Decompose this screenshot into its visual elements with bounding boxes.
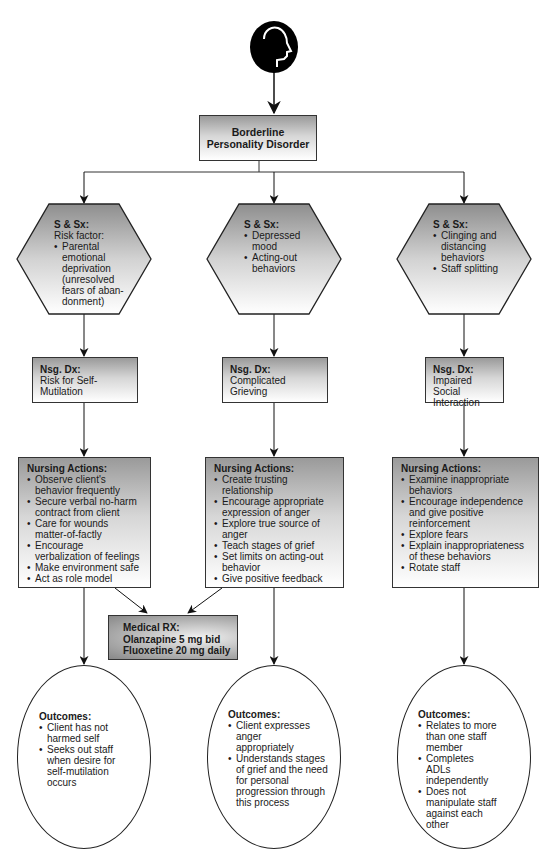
action-item: Explain inappropriateness of these behav…	[401, 540, 530, 562]
hex-item: Parental emotional deprivation (unresolv…	[54, 241, 124, 307]
nursing-actions-box-2: Nursing Actions: Create trusting relatio…	[205, 457, 344, 588]
nursing-actions-box-3: Nursing Actions: Examine inappropriate b…	[392, 457, 539, 588]
action-item: Explore fears	[401, 529, 530, 540]
outcome-item: Client has not harmed self	[39, 722, 115, 744]
dx-text: Impaired Social Interaction	[433, 375, 480, 408]
hex-item: Staff splitting	[433, 263, 518, 274]
action-item: Give positive feedback	[214, 573, 335, 584]
action-item: Care for wounds matter-of-factly	[27, 518, 142, 540]
actions-label: Nursing Actions:	[27, 463, 142, 474]
root-title-line1: Borderline	[232, 126, 285, 138]
rx-label: Medical RX:	[123, 622, 237, 634]
action-item: Create trusting relationship	[214, 474, 335, 496]
hex-item: Acting-out behaviors	[244, 252, 302, 274]
dx-text: Risk for Self-Mutilation	[40, 375, 97, 397]
outcome-item: Does not manipulate staff against each o…	[418, 786, 508, 830]
dx-label: Nsg. Dx:	[40, 364, 130, 375]
actions-label: Nursing Actions:	[401, 463, 530, 474]
outcome-item: Understands stages of grief and the need…	[228, 753, 332, 808]
head-profile-icon	[249, 21, 299, 73]
nursing-diagnosis-box-3: Nsg. Dx: Impaired Social Interaction	[425, 357, 504, 403]
hex-label: S & Sx:	[54, 219, 134, 230]
root-diagnosis-box: Borderline Personality Disorder	[199, 115, 317, 161]
action-item: Make environment safe	[27, 562, 142, 573]
outcomes-label: Outcomes:	[39, 711, 135, 722]
hex-item: Clinging and distancing behaviors	[433, 230, 501, 263]
hex-label: S & Sx:	[433, 219, 518, 230]
hex-item: Depressed mood	[244, 230, 302, 252]
outcomes-text-1: Outcomes: Client has not harmed self See…	[39, 711, 135, 788]
dx-label: Nsg. Dx:	[230, 364, 320, 375]
action-item: Encourage appropriate expression of ange…	[214, 496, 335, 518]
outcomes-label: Outcomes:	[228, 709, 332, 720]
outcomes-label: Outcomes:	[418, 709, 512, 720]
action-item: Observe client's behavior frequently	[27, 474, 142, 496]
rx-item: Fluoxetine 20 mg daily	[123, 645, 237, 657]
signs-symptoms-hex-3: S & Sx: Clinging and distancing behavior…	[433, 219, 518, 274]
action-item: Teach stages of grief	[214, 540, 335, 551]
outcome-item: Completes ADLs independently	[418, 753, 494, 786]
outcome-item: Seeks out staff when desire for self-mut…	[39, 744, 135, 788]
outcomes-text-3: Outcomes: Relates to more than one staff…	[418, 709, 512, 830]
action-item: Act as role model	[27, 573, 142, 584]
dx-text: Complicated Grieving	[230, 375, 286, 397]
medical-rx-box: Medical RX: Olanzapine 5 mg bid Fluoxeti…	[108, 615, 238, 660]
action-item: Set limits on acting-out behavior	[214, 551, 335, 573]
hex-intro: Risk factor:	[54, 230, 134, 241]
outcome-item: Relates to more than one staff member	[418, 720, 512, 753]
root-title-line2: Personality Disorder	[207, 138, 310, 150]
rx-item: Olanzapine 5 mg bid	[123, 634, 237, 646]
hex-label: S & Sx:	[244, 219, 324, 230]
action-item: Secure verbal no-harm contract from clie…	[27, 496, 142, 518]
action-item: Rotate staff	[401, 562, 530, 573]
outcomes-text-2: Outcomes: Client expresses anger appropr…	[228, 709, 332, 808]
actions-label: Nursing Actions:	[214, 463, 335, 474]
signs-symptoms-hex-2: S & Sx: Depressed mood Acting-out behavi…	[244, 219, 324, 274]
action-item: Encourage verbalization of feelings	[27, 540, 142, 562]
action-item: Explore true source of anger	[214, 518, 335, 540]
action-item: Examine inappropriate behaviors	[401, 474, 530, 496]
dx-label: Nsg. Dx:	[433, 364, 496, 375]
nursing-actions-box-1: Nursing Actions: Observe client's behavi…	[18, 457, 151, 588]
nursing-diagnosis-box-1: Nsg. Dx: Risk for Self-Mutilation	[32, 357, 138, 403]
signs-symptoms-hex-1: S & Sx: Risk factor: Parental emotional …	[54, 219, 134, 307]
action-item: Encourage independence and give positive…	[401, 496, 530, 529]
nursing-diagnosis-box-2: Nsg. Dx: Complicated Grieving	[222, 357, 328, 403]
outcome-item: Client expresses anger appropriately	[228, 720, 318, 753]
